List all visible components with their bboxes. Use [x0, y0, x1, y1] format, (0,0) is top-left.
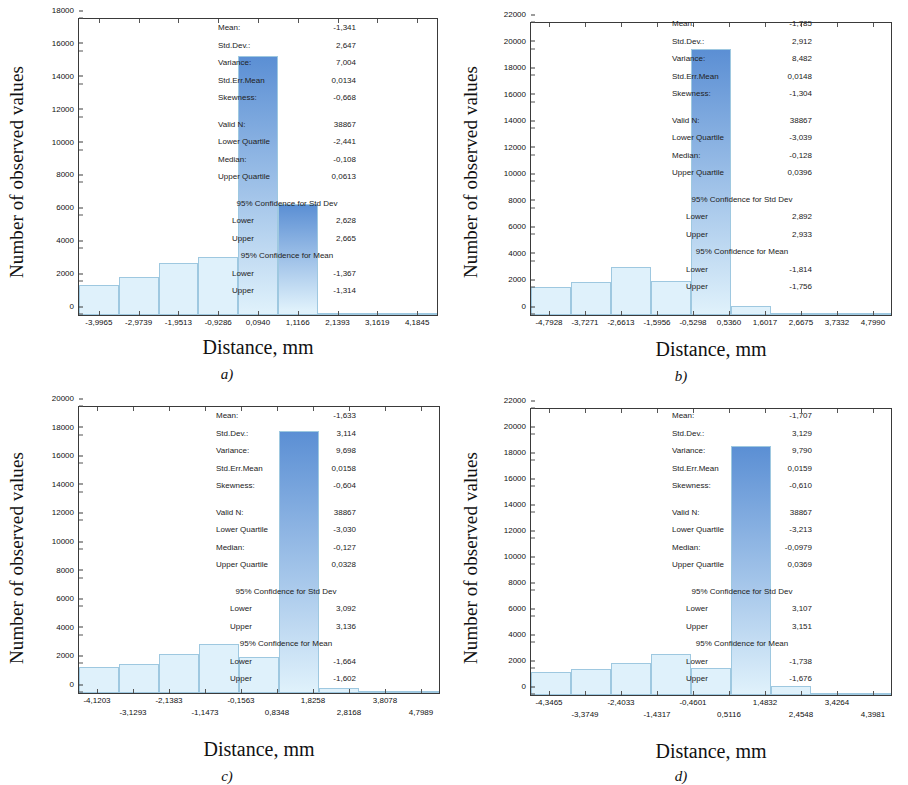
stats-row: Lower-1,738	[672, 656, 812, 674]
stats-row: Skewness:-1,304	[672, 88, 812, 106]
stats-key: Std.Dev.:	[218, 42, 250, 50]
x-tick-mark-top	[873, 23, 874, 27]
stats-value: 0,0148	[788, 73, 812, 81]
x-tick-mark-top	[549, 409, 550, 413]
y-tick-label: 16000	[52, 451, 79, 460]
stats-value: 0,0613	[332, 173, 356, 181]
y-tick-mark	[79, 50, 83, 51]
stats-row: Valid N:38867	[672, 115, 812, 133]
stats-value: 0,0158	[332, 465, 356, 473]
panel-caption-d: d)	[454, 768, 908, 785]
stats-key: Lower Quartile	[218, 138, 270, 146]
x-tick-mark	[377, 311, 378, 315]
stats-value: 3,092	[336, 605, 356, 613]
stats-row: Valid N:38867	[218, 119, 356, 137]
stats-key: Variance:	[672, 55, 705, 63]
x-tick-mark	[621, 311, 622, 315]
stats-key: Skewness:	[216, 482, 255, 490]
stats-key: Upper	[230, 623, 252, 631]
x-tick-label: 0,5360	[717, 318, 741, 327]
y-axis-title: Number of observed values	[460, 408, 486, 708]
histogram-panel-d: Number of observed values -4,3465-3,3749…	[454, 390, 908, 780]
x-tick-mark-top	[621, 409, 622, 413]
stats-section-header: 95% Confidence for Std Dev	[218, 198, 356, 216]
histogram-panel-a: Number of observed values -3,9965-2,9739…	[0, 0, 454, 390]
y-tick-mark	[531, 408, 535, 409]
stats-value: 9,790	[792, 447, 812, 455]
stats-value: 2,933	[792, 231, 812, 239]
stats-key: Lower	[686, 658, 708, 666]
stats-spacer	[672, 498, 812, 507]
stats-key: Upper Quartile	[218, 173, 270, 181]
y-tick-mark	[79, 463, 83, 464]
stats-row: Median:-0,108	[218, 154, 356, 172]
stats-section-header: 95% Confidence for Mean	[672, 638, 812, 656]
y-tick-mark	[531, 154, 535, 155]
stats-key: Std.Dev.:	[672, 430, 704, 438]
x-tick-mark	[693, 311, 694, 315]
stats-row: Lower-1,814	[672, 264, 812, 282]
stats-row: Upper-1,602	[216, 673, 356, 691]
x-tick-label: 2,6675	[789, 318, 813, 327]
y-tick-label: 20000	[52, 394, 79, 403]
stats-row: Lower Quartile-3,213	[672, 524, 812, 542]
x-tick-label: -1,5956	[643, 318, 670, 327]
stats-key: Variance:	[672, 447, 705, 455]
y-tick-mark	[79, 577, 83, 578]
x-tick-mark-top	[205, 407, 206, 411]
x-tick-mark	[837, 311, 838, 315]
y-tick-label: 2000	[508, 656, 531, 665]
stats-row: Upper Quartile0,0396	[672, 167, 812, 185]
stats-key: Mean:	[672, 20, 694, 28]
stats-value: 7,004	[336, 59, 356, 67]
stats-row: Upper-1,756	[672, 281, 812, 299]
histogram-bar	[571, 282, 611, 315]
stats-value: 9,698	[336, 447, 356, 455]
stats-row: Std.Dev.:3,129	[672, 428, 812, 446]
y-tick-label: 0	[70, 302, 79, 311]
stats-key: Lower	[686, 213, 708, 221]
x-tick-mark-top	[837, 409, 838, 413]
stats-key: Skewness:	[218, 94, 257, 102]
stats-value: 0,0396	[788, 169, 812, 177]
x-tick-mark-top	[417, 19, 418, 23]
y-tick-label: 2000	[508, 275, 531, 284]
stats-row: Std.Err.Mean0,0134	[218, 75, 356, 93]
y-tick-label: 20000	[504, 36, 531, 45]
stats-key: Lower	[686, 266, 708, 274]
x-tick-mark	[99, 311, 100, 315]
stats-row: Skewness:-0,668	[218, 92, 356, 110]
y-tick-mark	[531, 260, 535, 261]
x-tick-label: 2,4548	[789, 710, 813, 719]
x-tick-label: 0,0940	[246, 318, 270, 327]
stats-key: Valid N:	[672, 509, 699, 517]
stats-value: 8,482	[792, 55, 812, 63]
stats-value: -1,707	[789, 412, 812, 420]
x-tick-labels-d: -4,3465-3,3749-2,4033-1,4317-0,46010,511…	[531, 695, 891, 729]
panel-caption-b: b)	[454, 368, 908, 385]
stats-row: Median:-0,0979	[672, 542, 812, 560]
x-tick-mark	[169, 689, 170, 693]
y-tick-mark	[79, 549, 83, 550]
stats-header-label: 95% Confidence for Std Dev	[216, 588, 356, 596]
x-tick-mark	[218, 311, 219, 315]
x-tick-mark	[549, 691, 550, 695]
x-tick-mark-top	[657, 409, 658, 413]
x-tick-mark	[585, 311, 586, 315]
y-tick-label: 12000	[52, 508, 79, 517]
histogram-bar	[571, 669, 611, 695]
stats-row: Lower Quartile-3,030	[216, 524, 356, 542]
stats-value: -2,441	[333, 138, 356, 146]
x-tick-label: -3,7271	[571, 318, 598, 327]
stats-row: Lower3,107	[672, 603, 812, 621]
y-tick-label: 0	[522, 682, 531, 691]
x-tick-mark-top	[621, 23, 622, 27]
x-tick-label: -0,1563	[227, 696, 254, 705]
stats-row: Upper Quartile0,0613	[218, 171, 356, 189]
x-tick-mark	[338, 311, 339, 315]
y-tick-label: 14000	[504, 500, 531, 509]
stats-key: Valid N:	[216, 509, 243, 517]
stats-key: Valid N:	[672, 117, 699, 125]
stats-section-header: 95% Confidence for Mean	[216, 638, 356, 656]
y-tick-mark	[531, 668, 535, 669]
